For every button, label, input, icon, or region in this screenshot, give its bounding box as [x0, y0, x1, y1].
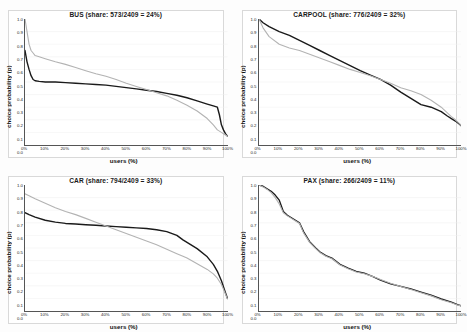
- y-tick-label: 0.6: [17, 236, 23, 241]
- y-tick-label: 0.3: [17, 276, 23, 281]
- y-tick-label: 0.4: [251, 96, 257, 101]
- y-tick-label: 0.3: [251, 276, 257, 281]
- plot-wrapper: choice probability (p) 1.00.90.80.70.60.…: [4, 185, 228, 330]
- x-tick-label: 30%: [314, 146, 323, 151]
- x-tick-label: 90%: [436, 146, 445, 151]
- x-tick-label: 70%: [396, 312, 405, 317]
- plot-column: 0%10%20%30%40%50%60%70%80%90%100% users …: [258, 19, 462, 164]
- y-tick-label: 0.7: [251, 222, 257, 227]
- plot-svg: [25, 185, 228, 311]
- y-tick-label: 0.5: [251, 83, 257, 88]
- y-tick-label: 0.1: [251, 136, 257, 141]
- y-tick-label: 0.9: [251, 196, 257, 201]
- y-tick-label: 0.4: [17, 262, 23, 267]
- y-axis-ticks: 1.00.90.80.70.60.50.40.30.20.10.0: [13, 185, 24, 330]
- series-line-black-curve: [259, 185, 462, 306]
- x-tick-label: 80%: [416, 312, 425, 317]
- y-axis-ticks: 1.00.90.80.70.60.50.40.30.20.10.0: [247, 19, 258, 164]
- x-tick-label: 100%: [222, 312, 233, 317]
- y-tick-label: 0.5: [251, 249, 257, 254]
- x-tick-label: 10%: [40, 312, 49, 317]
- y-tick-label: 0.3: [251, 110, 257, 115]
- y-tick-label: 0.7: [17, 56, 23, 61]
- x-tick-label: 60%: [375, 312, 384, 317]
- y-tick-label: 0.6: [17, 70, 23, 75]
- x-tick-label: 60%: [142, 312, 151, 317]
- plot-wrapper: choice probability (p) 1.00.90.80.70.60.…: [238, 19, 462, 164]
- x-tick-label: 60%: [375, 146, 384, 151]
- y-tick-label: 0.2: [251, 289, 257, 294]
- series-line-gray-curve: [25, 19, 228, 136]
- chart-title: BUS (share: 573/2409 = 24%): [4, 11, 228, 18]
- chart-title: CARPOOL (share: 776/2409 = 32%): [238, 11, 462, 18]
- x-axis-ticks: 0%10%20%30%40%50%60%70%80%90%100%: [24, 146, 228, 158]
- x-tick-label: 70%: [162, 312, 171, 317]
- x-tick-label: 30%: [314, 312, 323, 317]
- plot-area: [24, 185, 228, 312]
- y-tick-label: 0.5: [17, 83, 23, 88]
- plot-svg: [259, 19, 462, 145]
- series-line-black-curve: [25, 51, 228, 137]
- plot-column: 0%10%20%30%40%50%60%70%80%90%100% users …: [24, 185, 228, 330]
- x-axis-label: users (%): [258, 323, 462, 330]
- x-axis-label: users (%): [24, 323, 228, 330]
- y-axis-ticks: 1.00.90.80.70.60.50.40.30.20.10.0: [13, 19, 24, 164]
- x-tick-label: 40%: [101, 146, 110, 151]
- x-tick-label: 20%: [294, 312, 303, 317]
- plot-wrapper: choice probability (p) 1.00.90.80.70.60.…: [238, 185, 462, 330]
- y-tick-label: 0.6: [251, 70, 257, 75]
- y-tick-label: 0.1: [251, 302, 257, 307]
- series-line-gray-curve: [25, 194, 228, 299]
- x-tick-label: 30%: [81, 146, 90, 151]
- chart-title: CAR (share: 794/2409 = 33%): [4, 177, 228, 184]
- x-axis-label: users (%): [24, 157, 228, 164]
- x-axis-ticks: 0%10%20%30%40%50%60%70%80%90%100%: [258, 312, 462, 324]
- x-tick-label: 0%: [21, 146, 27, 151]
- x-tick-label: 10%: [274, 312, 283, 317]
- x-tick-label: 20%: [60, 312, 69, 317]
- x-tick-label: 0%: [21, 312, 27, 317]
- x-tick-label: 100%: [456, 146, 467, 151]
- x-tick-label: 40%: [101, 312, 110, 317]
- x-tick-label: 60%: [142, 146, 151, 151]
- x-tick-label: 40%: [335, 146, 344, 151]
- y-tick-label: 1.0: [251, 17, 257, 22]
- plot-area: [258, 185, 462, 312]
- chart-panel-bus: BUS (share: 573/2409 = 24%) choice proba…: [0, 0, 234, 166]
- chart-title: PAX (share: 266/2409 = 11%): [238, 177, 462, 184]
- y-tick-label: 0.8: [17, 43, 23, 48]
- series-line-black-curve: [25, 213, 228, 299]
- y-tick-label: 0.8: [17, 209, 23, 214]
- y-axis-ticks: 1.00.90.80.70.60.50.40.30.20.10.0: [247, 185, 258, 330]
- x-tick-label: 0%: [254, 146, 260, 151]
- x-tick-label: 100%: [456, 312, 467, 317]
- chart-panel-carpool: CARPOOL (share: 776/2409 = 32%) choice p…: [234, 0, 467, 166]
- series-line-gray-curve: [259, 185, 462, 306]
- x-axis-ticks: 0%10%20%30%40%50%60%70%80%90%100%: [24, 312, 228, 324]
- y-tick-label: 0.2: [17, 289, 23, 294]
- plot-column: 0%10%20%30%40%50%60%70%80%90%100% users …: [258, 185, 462, 330]
- plot-svg: [25, 19, 228, 145]
- y-tick-label: 0.9: [17, 196, 23, 201]
- x-tick-label: 50%: [121, 312, 130, 317]
- y-tick-label: 0.4: [17, 96, 23, 101]
- plot-area: [24, 19, 228, 146]
- x-tick-label: 90%: [203, 146, 212, 151]
- y-tick-label: 0.4: [251, 262, 257, 267]
- x-tick-label: 50%: [355, 146, 364, 151]
- x-tick-label: 80%: [416, 146, 425, 151]
- y-tick-label: 0.7: [251, 56, 257, 61]
- x-tick-label: 80%: [182, 146, 191, 151]
- y-tick-label: 0.9: [17, 30, 23, 35]
- y-tick-label: 0.9: [251, 30, 257, 35]
- y-tick-label: 0.2: [17, 123, 23, 128]
- x-tick-label: 40%: [335, 312, 344, 317]
- plot-column: 0%10%20%30%40%50%60%70%80%90%100% users …: [24, 19, 228, 164]
- y-axis-label: choice probability (p): [4, 19, 13, 164]
- x-tick-label: 10%: [40, 146, 49, 151]
- chart-grid: BUS (share: 573/2409 = 24%) choice proba…: [0, 0, 467, 332]
- x-tick-label: 20%: [60, 146, 69, 151]
- y-tick-label: 0.5: [17, 249, 23, 254]
- y-axis-label: choice probability (p): [238, 185, 247, 330]
- plot-svg: [259, 185, 462, 311]
